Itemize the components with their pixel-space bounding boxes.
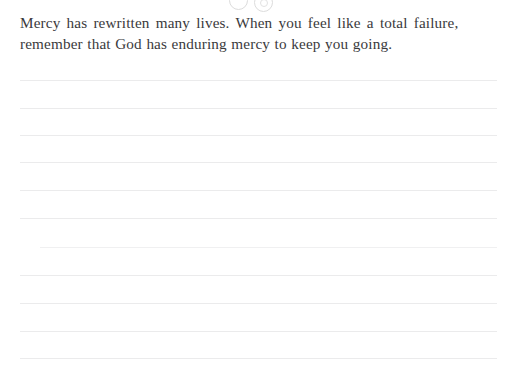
journal-page: Mercy has rewritten many lives. When you…: [0, 0, 516, 377]
rule-line: [20, 358, 497, 359]
rule-line: [20, 190, 497, 191]
rule-line: [20, 162, 497, 163]
rule-line: [20, 80, 497, 81]
quote-line-2: remember that God has enduring mercy to …: [20, 33, 498, 54]
rule-line: [20, 303, 497, 304]
rule-line: [20, 218, 497, 219]
rule-line: [20, 108, 497, 109]
quote-block: Mercy has rewritten many lives. When you…: [20, 12, 498, 54]
ruled-writing-area: [0, 0, 516, 377]
ornament-strip: [0, 0, 516, 12]
rule-line: [20, 275, 497, 276]
rule-line: [40, 247, 497, 248]
quote-line-1: Mercy has rewritten many lives. When you…: [20, 12, 498, 33]
circle-ornament-icon: [229, 0, 248, 10]
rule-line: [20, 135, 497, 136]
circle-ornament-icon: [254, 0, 273, 12]
rule-line: [20, 331, 497, 332]
